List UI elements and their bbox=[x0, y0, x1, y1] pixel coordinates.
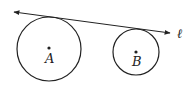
circle-a-center bbox=[47, 46, 50, 49]
tangent-line bbox=[14, 12, 170, 33]
label-a: A bbox=[44, 51, 54, 66]
label-b: B bbox=[131, 54, 142, 69]
label-line: ℓ bbox=[177, 26, 183, 41]
tangent-circles-diagram: A B ℓ bbox=[0, 0, 196, 89]
